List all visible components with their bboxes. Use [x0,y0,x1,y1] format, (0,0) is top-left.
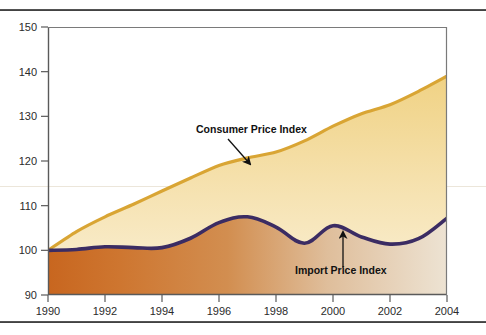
x-tick-label: 1994 [150,305,174,317]
y-axis-tick-labels: 90100110120130140150 [19,21,37,301]
y-tick-label: 130 [19,110,37,122]
x-axis-ticks [48,295,447,302]
chart-figure: 90100110120130140150 1990199219941996199… [0,0,486,335]
y-tick-label: 90 [25,289,37,301]
x-tick-label: 2000 [321,305,345,317]
x-tick-label: 2002 [378,305,402,317]
x-axis-tick-labels: 19901992199419961998200020022004 [36,305,459,317]
x-tick-label: 1996 [207,305,231,317]
y-tick-label: 110 [19,200,37,212]
y-tick-label: 150 [19,21,37,33]
import-annotation-label: Import Price Index [295,264,387,276]
y-axis-ticks [41,27,48,295]
y-tick-label: 100 [19,244,37,256]
x-tick-label: 1990 [36,305,60,317]
cpi-annotation-label: Consumer Price Index [196,123,307,135]
y-tick-label: 120 [19,155,37,167]
y-tick-label: 140 [19,66,37,78]
x-tick-label: 1992 [93,305,117,317]
area-chart: 90100110120130140150 1990199219941996199… [0,0,486,335]
x-tick-label: 1998 [264,305,288,317]
x-tick-label: 2004 [435,305,459,317]
